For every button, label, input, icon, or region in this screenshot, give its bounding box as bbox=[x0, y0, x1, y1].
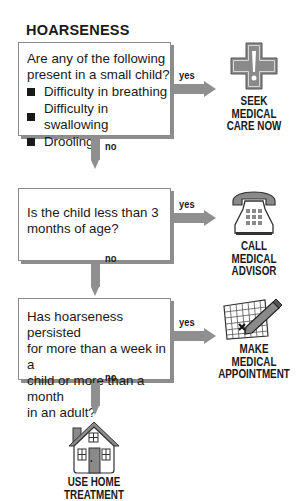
question-box-2: Is the child less than 3 months of age? bbox=[18, 188, 171, 261]
no-arrow-3 bbox=[91, 383, 100, 406]
no-label-3: no bbox=[105, 371, 116, 383]
question-line: Is the child less than 3 bbox=[27, 205, 159, 221]
no-arrow-1 bbox=[91, 139, 100, 160]
bullet-square-icon bbox=[27, 88, 35, 96]
question-line: months of age? bbox=[27, 221, 159, 237]
house-icon bbox=[67, 420, 121, 474]
yes-label-2: yes bbox=[179, 198, 195, 210]
question-box-3: Has hoarseness persisted for more than a… bbox=[18, 298, 171, 380]
question-line: for more than a week in a bbox=[27, 341, 170, 373]
question-box-1: Are any of the following present in a sm… bbox=[18, 42, 171, 136]
question-line: Are any of the following bbox=[27, 51, 170, 67]
bullet-item: Difficulty in breathing bbox=[27, 84, 170, 100]
yes-label-1: yes bbox=[179, 69, 195, 81]
yes-arrow-1 bbox=[174, 84, 204, 94]
no-label-2: no bbox=[105, 252, 116, 264]
telephone-icon bbox=[229, 187, 279, 237]
action-make-appointment: MAKE MEDICAL APPOINTMENT bbox=[215, 343, 294, 381]
page-title: HOARSENESS bbox=[26, 22, 130, 38]
bullet-square-icon bbox=[27, 113, 35, 121]
action-line: TREATMENT bbox=[61, 489, 127, 501]
question-line: present in a small child? bbox=[27, 67, 170, 83]
action-line: APPOINTMENT bbox=[215, 368, 294, 381]
action-line: MAKE bbox=[215, 343, 294, 356]
no-arrow-2 bbox=[91, 264, 100, 287]
yes-arrow-2 bbox=[174, 213, 204, 223]
bullet-text: Difficulty in breathing bbox=[44, 84, 167, 100]
action-home-treatment: USE HOME TREATMENT bbox=[61, 476, 127, 501]
question-text-1: Are any of the following present in a sm… bbox=[27, 51, 170, 150]
action-call-advisor: CALL MEDICAL ADVISOR bbox=[221, 240, 287, 278]
bullet-text: Drooling bbox=[44, 134, 94, 150]
action-seek-care: SEEK MEDICAL CARE NOW bbox=[221, 95, 287, 133]
yes-arrow-3 bbox=[174, 331, 204, 341]
question-text-2: Is the child less than 3 months of age? bbox=[27, 205, 159, 237]
no-label-1: no bbox=[105, 140, 116, 152]
action-line: CARE NOW bbox=[221, 120, 287, 133]
bullet-item: Difficulty in swallowing bbox=[27, 101, 170, 133]
bullet-square-icon bbox=[27, 138, 35, 146]
yes-label-3: yes bbox=[179, 316, 195, 328]
action-line: SEEK bbox=[221, 95, 287, 108]
action-line: USE HOME bbox=[61, 476, 127, 489]
bullet-text: Difficulty in swallowing bbox=[44, 101, 170, 133]
calendar-pencil-icon bbox=[221, 296, 283, 340]
action-line: ADVISOR bbox=[221, 265, 287, 278]
question-line: Has hoarseness persisted bbox=[27, 309, 170, 341]
action-line: CALL bbox=[221, 240, 287, 253]
medical-cross-icon bbox=[230, 42, 278, 90]
